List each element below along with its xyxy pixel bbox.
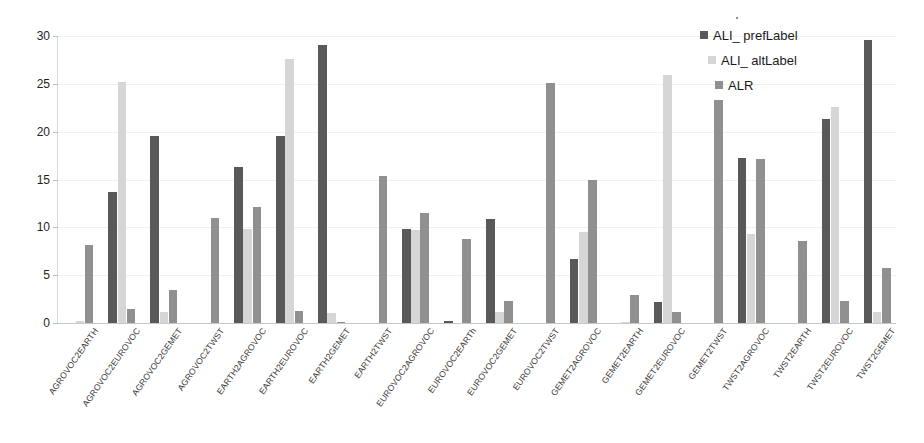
bar bbox=[379, 176, 388, 323]
bar bbox=[831, 107, 840, 323]
bar bbox=[85, 245, 94, 323]
bar bbox=[253, 207, 262, 323]
bar-group bbox=[654, 36, 681, 323]
bar bbox=[570, 259, 579, 323]
bar bbox=[798, 241, 807, 323]
bar-group bbox=[192, 36, 219, 323]
bar bbox=[756, 159, 765, 323]
bar bbox=[118, 82, 127, 323]
y-axis-tick-mark bbox=[53, 84, 58, 85]
bar-group bbox=[486, 36, 513, 323]
bar-group bbox=[276, 36, 303, 323]
legend-label-ali-preflabel: ALI_ prefLabel bbox=[713, 28, 798, 43]
bar-group bbox=[444, 36, 471, 323]
bar bbox=[882, 268, 891, 323]
legend-item-ali-preflabel[interactable]: ALI_ prefLabel bbox=[700, 24, 900, 46]
legend-item-alr[interactable]: ALR bbox=[715, 74, 900, 96]
gridline bbox=[57, 180, 896, 181]
y-axis-tick-label: 30 bbox=[18, 30, 50, 42]
bar bbox=[672, 312, 681, 323]
legend-swatch-ali-preflabel bbox=[700, 31, 708, 39]
bar bbox=[486, 219, 495, 323]
bar-group bbox=[150, 36, 177, 323]
bar bbox=[402, 229, 411, 323]
bar bbox=[318, 45, 327, 323]
bar bbox=[169, 290, 178, 323]
bar bbox=[276, 136, 285, 323]
bar bbox=[588, 180, 597, 324]
y-axis-tick-label: 10 bbox=[18, 221, 50, 233]
bar bbox=[327, 313, 336, 323]
gridline bbox=[57, 227, 896, 228]
bar bbox=[462, 239, 471, 323]
bar-group bbox=[360, 36, 387, 323]
y-axis-tick-mark bbox=[53, 36, 58, 37]
bar bbox=[714, 100, 723, 323]
x-axis-tick-label: TWST2EARTH bbox=[771, 326, 813, 380]
bar bbox=[546, 83, 555, 323]
bar-group bbox=[402, 36, 429, 323]
bar bbox=[295, 311, 304, 323]
bar-group bbox=[234, 36, 261, 323]
bar bbox=[411, 230, 420, 323]
bar bbox=[211, 218, 220, 323]
x-axis-tick-label: TWST2GEMET bbox=[854, 326, 897, 381]
x-axis-tick-label: TWST2EUROVOC bbox=[805, 326, 856, 392]
bar bbox=[127, 309, 136, 323]
y-axis-tick-label: 5 bbox=[18, 269, 50, 281]
x-axis-tick-label: GEMET2EARTH bbox=[600, 326, 646, 385]
bar bbox=[243, 229, 252, 323]
x-axis-tick-label: EARTH2GEMET bbox=[306, 326, 352, 385]
bar bbox=[495, 312, 504, 323]
bar bbox=[150, 136, 159, 323]
bar-group bbox=[66, 36, 93, 323]
bar-group bbox=[318, 36, 345, 323]
bar bbox=[654, 302, 663, 323]
bar-group bbox=[612, 36, 639, 323]
bar bbox=[630, 295, 639, 323]
x-axis-tick-label: AGROVOC2TWST bbox=[175, 326, 226, 393]
bar bbox=[285, 59, 294, 323]
bar bbox=[873, 312, 882, 323]
x-axis-tick-label: TWST2AGROVOC bbox=[721, 326, 772, 393]
legend-item-ali-altlabel[interactable]: ALI_ altLabel bbox=[708, 49, 900, 71]
gridline bbox=[57, 132, 896, 133]
y-axis-tick-mark bbox=[53, 180, 58, 181]
legend-swatch-ali-altlabel bbox=[708, 56, 716, 64]
bar bbox=[822, 119, 831, 323]
y-axis-tick-mark bbox=[53, 227, 58, 228]
bar-group bbox=[528, 36, 555, 323]
bar bbox=[579, 232, 588, 323]
bar bbox=[234, 167, 243, 323]
bar bbox=[738, 158, 747, 323]
y-axis-tick-mark bbox=[53, 275, 58, 276]
bar-group bbox=[108, 36, 135, 323]
bar bbox=[840, 301, 849, 323]
legend-swatch-alr bbox=[715, 81, 723, 89]
bar bbox=[420, 213, 429, 323]
bar bbox=[108, 192, 117, 323]
bar-chart: 051015202530 AGROVOC2EARTHAGROVOC2EUROVO… bbox=[0, 0, 924, 443]
x-axis-tick-label: EARTH2TWST bbox=[352, 326, 394, 380]
y-axis-tick-mark bbox=[53, 132, 58, 133]
bar bbox=[504, 301, 513, 323]
y-axis-tick-label: 20 bbox=[18, 126, 50, 138]
x-axis-tick-label: GEMET2TWST bbox=[686, 326, 729, 381]
y-axis-tick-label: 0 bbox=[18, 317, 50, 329]
chart-legend: ALI_ prefLabel ALI_ altLabel ALR bbox=[700, 24, 900, 99]
bar bbox=[160, 312, 169, 323]
stray-dot-mark bbox=[736, 17, 738, 19]
y-axis-tick-mark bbox=[53, 323, 58, 324]
y-axis-tick-label: 15 bbox=[18, 174, 50, 186]
bar bbox=[663, 75, 672, 323]
x-axis-labels: AGROVOC2EARTHAGROVOC2EUROVOCAGROVOC2GEME… bbox=[57, 326, 896, 443]
x-axis-line bbox=[57, 323, 896, 324]
legend-label-ali-altlabel: ALI_ altLabel bbox=[721, 53, 797, 68]
legend-label-alr: ALR bbox=[728, 78, 753, 93]
bar bbox=[747, 234, 756, 323]
gridline bbox=[57, 275, 896, 276]
y-axis-tick-label: 25 bbox=[18, 78, 50, 90]
bar-group bbox=[570, 36, 597, 323]
